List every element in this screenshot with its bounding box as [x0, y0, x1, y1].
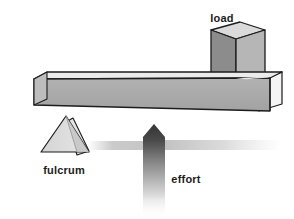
effort-arrow — [143, 124, 165, 219]
label-fulcrum: fulcrum — [43, 164, 85, 176]
lever-diagram: load fulcrum effort — [0, 0, 294, 219]
label-effort: effort — [171, 173, 200, 185]
fulcrum-wedge — [41, 116, 89, 155]
label-load: load — [210, 12, 233, 24]
lever-scene: load fulcrum effort — [0, 0, 294, 219]
ground-shadow — [88, 140, 282, 150]
